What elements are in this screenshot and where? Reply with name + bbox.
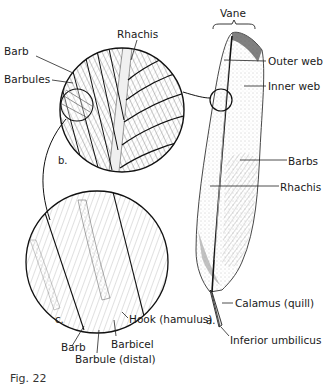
label-calamus: Calamus (quill) (235, 297, 314, 309)
feather-whole (196, 32, 264, 327)
label-vane: Vane (220, 7, 246, 19)
panel-label-a: a. (206, 315, 215, 327)
label-inner-web: Inner web (268, 80, 320, 92)
label-rhachis-b: Rhachis (117, 28, 158, 40)
panel-label-c: c. (55, 314, 64, 326)
label-barbules-b: Barbules (4, 73, 50, 85)
label-inferior-umbilicus: Inferior umbilicus (230, 334, 321, 346)
detail-circle-c-source (61, 89, 93, 121)
label-barbicel: Barbicel (111, 338, 154, 350)
magnified-barbules-c (26, 180, 168, 333)
label-rhachis-a: Rhachis (280, 181, 321, 193)
figure-caption: Fig. 22 (10, 373, 47, 385)
panel-label-b: b. (58, 155, 68, 167)
magnified-vane-b (60, 40, 188, 180)
label-barb-c: Barb (61, 341, 86, 353)
label-hook-hamulus: Hook (hamulus) (129, 313, 212, 325)
connector-b-to-a (183, 92, 210, 98)
label-outer-web: Outer web (268, 55, 323, 67)
label-barb-b: Barb (4, 45, 29, 57)
label-barbs-a: Barbs (288, 155, 318, 167)
vane-brace (213, 20, 255, 29)
label-barbule-distal: Barbule (distal) (75, 353, 156, 365)
